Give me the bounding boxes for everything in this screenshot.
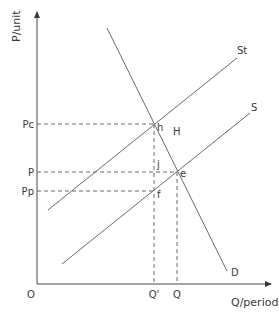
supply-with-tax-curve — [48, 58, 237, 210]
quantity-label-q: Q — [173, 289, 181, 300]
supply-demand-diagram: P/unit Q/period O Pc P Pp Q' Q St S D h … — [0, 0, 279, 322]
x-axis-label: Q/period — [231, 296, 278, 309]
point-label-j: j — [156, 159, 160, 170]
point-label-f: f — [157, 189, 161, 200]
quantity-label-q-prime: Q' — [149, 289, 160, 300]
origin-label: O — [27, 289, 35, 300]
price-label-pc: Pc — [22, 119, 34, 130]
demand-curve — [107, 28, 227, 271]
y-axis-label: P/unit — [10, 10, 23, 42]
point-label-h: h — [157, 122, 163, 133]
curve-label-st: St — [237, 45, 247, 56]
curve-label-d: D — [231, 267, 239, 278]
region-label-h: H — [173, 126, 181, 137]
point-label-e: e — [180, 168, 186, 179]
price-label-p: P — [28, 167, 34, 178]
price-label-pp: Pp — [22, 186, 34, 197]
curve-label-s: S — [251, 102, 257, 113]
supply-curve — [62, 113, 250, 264]
